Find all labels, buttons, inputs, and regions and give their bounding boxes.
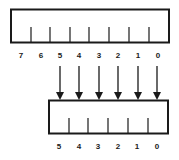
bottom-bit-label: 2 [116,142,121,151]
top-bit-label: 7 [19,51,24,60]
top-bit-label: 3 [97,51,102,60]
bottom-bit-label: 3 [96,142,101,151]
arrow-down-icon [56,66,64,100]
top-register-box [11,10,169,43]
arrow-down-icon [114,66,122,100]
top-bit-label: 2 [116,51,121,60]
bottom-bit-label: 0 [155,142,160,151]
transfer-arrows [56,66,161,100]
bottom-register-bit-labels: 5 4 3 2 1 0 [57,142,160,151]
top-bit-label: 4 [77,51,82,60]
top-register-bit-labels: 7 6 5 4 3 2 1 0 [19,51,161,60]
arrow-down-icon [153,66,161,100]
top-bit-label: 0 [156,51,161,60]
bottom-bit-label: 5 [57,142,62,151]
bottom-register-dividers [69,118,148,133]
arrow-down-icon [95,66,103,100]
arrow-down-icon [134,66,142,100]
top-bit-label: 1 [136,51,141,60]
top-bit-label: 6 [39,51,44,60]
arrow-down-icon [75,66,83,100]
top-register-dividers [31,27,149,42]
bottom-bit-label: 1 [135,142,140,151]
register-transfer-diagram: 7 6 5 4 3 2 1 0 5 4 3 2 1 0 [0,0,179,160]
top-bit-label: 5 [58,51,63,60]
bottom-bit-label: 4 [77,142,82,151]
